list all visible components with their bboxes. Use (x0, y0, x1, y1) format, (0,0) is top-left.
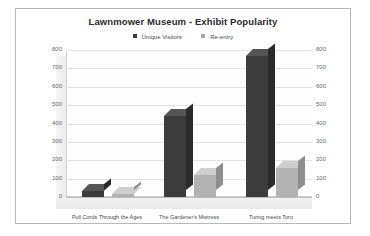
y-axis-tick-label: 500 (316, 101, 340, 107)
gridline (66, 197, 312, 198)
legend-label: Unique Visitors (142, 34, 182, 40)
y-axis-tick-label: 400 (38, 120, 62, 126)
y-axis-tick-label: 200 (316, 156, 340, 162)
bar-unique-visitors[interactable] (82, 191, 104, 197)
plot-area (56, 50, 312, 209)
y-axis-tick-label: 200 (38, 156, 62, 162)
y-axis-tick-label: 300 (38, 138, 62, 144)
y-axis-tick-label: 300 (316, 138, 340, 144)
y-axis-tick-label: 600 (316, 83, 340, 89)
y-axis-tick-label: 0 (316, 193, 340, 199)
y-axis-tick-label: 600 (38, 83, 62, 89)
legend-swatch-icon (133, 34, 137, 38)
bar-group (230, 50, 312, 197)
plot-side-wall (56, 56, 66, 203)
y-axis-tick-label: 400 (316, 120, 340, 126)
y-axis-tick-label: 700 (38, 64, 62, 70)
x-axis-category-label: The Gardener's Mistress (148, 214, 230, 220)
legend-swatch-icon (201, 34, 205, 38)
x-axis-category-label: Turing meets Toro (230, 214, 312, 220)
y-axis-tick-label: 800 (316, 46, 340, 52)
plot-floor (56, 197, 312, 209)
bar-re-entry[interactable] (194, 175, 216, 197)
y-axis-tick-label: 0 (38, 193, 62, 199)
bar-re-entry[interactable] (112, 194, 134, 197)
bar-group (66, 50, 148, 197)
y-axis-tick-label: 500 (38, 101, 62, 107)
bar-unique-visitors[interactable] (164, 116, 186, 197)
y-axis-tick-label: 800 (38, 46, 62, 52)
y-axis-tick-label: 100 (316, 175, 340, 181)
chart-title: Lawnmower Museum - Exhibit Popularity (16, 16, 350, 27)
legend-item-unique-visitors[interactable]: Unique Visitors (133, 34, 182, 40)
x-axis-category-label: Pull Cords Through the Ages (66, 214, 148, 220)
bar-series-group (66, 50, 312, 197)
bar-group (148, 50, 230, 197)
bar-re-entry[interactable] (276, 168, 298, 197)
chart-frame: Lawnmower Museum - Exhibit Popularity Un… (15, 8, 351, 224)
y-axis-tick-label: 100 (38, 175, 62, 181)
legend-item-re-entry[interactable]: Re-entry (201, 34, 233, 40)
chart-legend: Unique Visitors Re-entry (16, 34, 350, 40)
legend-label: Re-entry (210, 34, 233, 40)
bar-unique-visitors[interactable] (246, 56, 268, 197)
y-axis-tick-label: 700 (316, 64, 340, 70)
